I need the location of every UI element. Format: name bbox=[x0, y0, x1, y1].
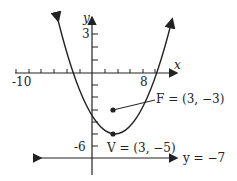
directrix-label: y = −7 bbox=[182, 151, 225, 165]
x-tick-label-8: 8 bbox=[140, 75, 148, 89]
vertex-label: V = (3, −5) bbox=[106, 141, 176, 155]
parabola-curve bbox=[58, 20, 172, 134]
x-tick-label-neg10: -10 bbox=[12, 75, 31, 89]
vertex-point bbox=[110, 131, 115, 136]
y-axis bbox=[92, 18, 98, 175]
y-tick-label-3: 3 bbox=[82, 27, 90, 41]
focus-label: F = (3, −3) bbox=[156, 92, 224, 106]
y-axis-label: y bbox=[82, 11, 90, 25]
x-axis bbox=[15, 69, 176, 73]
x-axis-label: x bbox=[174, 58, 181, 72]
focus-leader-line bbox=[113, 100, 155, 110]
parabola-diagram: y x 3 -10 8 -6 F = (3, −3) V = (3, −5) y… bbox=[0, 0, 237, 181]
y-tick-label-neg6: -6 bbox=[74, 140, 86, 154]
